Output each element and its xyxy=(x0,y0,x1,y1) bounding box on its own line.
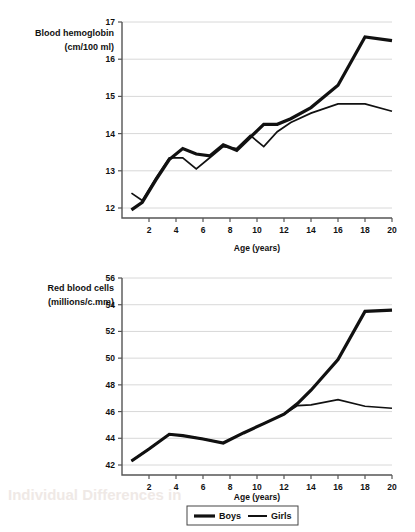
y-tick-label: 16 xyxy=(106,54,116,64)
series-line-boys-hemoglobin xyxy=(131,37,392,210)
axis-frame-rbc xyxy=(122,278,392,475)
y-tick-label: 52 xyxy=(106,326,116,336)
x-tick-labels-hemoglobin: 2468101214161820 xyxy=(147,225,397,235)
x-tick-label: 12 xyxy=(279,225,289,235)
series-line-girls-hemoglobin xyxy=(131,104,392,201)
x-tick-label: 4 xyxy=(174,482,179,492)
axis-frame-hemoglobin xyxy=(122,22,392,218)
x-tick-label: 10 xyxy=(252,482,262,492)
chart-hemoglobin: 121314151617 2468101214161820 Blood hemo… xyxy=(35,17,397,253)
y-tick-label: 46 xyxy=(106,407,116,417)
x-axis-title-rbc: Age (years) xyxy=(234,492,280,502)
x-tick-label: 16 xyxy=(333,482,343,492)
x-tick-labels-rbc: 2468101214161820 xyxy=(147,482,397,492)
x-tick-label: 14 xyxy=(306,482,316,492)
y-axis-title-rbc-line2: (millions/c.mm) xyxy=(48,297,114,307)
x-tick-label: 8 xyxy=(228,482,233,492)
y-tick-label: 14 xyxy=(106,129,116,139)
legend-label-girls: Girls xyxy=(271,511,292,521)
x-tick-label: 14 xyxy=(306,225,316,235)
x-tick-label: 2 xyxy=(147,482,152,492)
x-tick-label: 2 xyxy=(147,225,152,235)
x-tick-label: 12 xyxy=(279,482,289,492)
y-axis-title-hemoglobin-line1: Blood hemoglobin xyxy=(35,28,114,38)
x-tick-label: 16 xyxy=(333,225,343,235)
chart-red-blood-cells: 4244464850525456 2468101214161820 Red bl… xyxy=(47,273,397,502)
x-tick-label: 18 xyxy=(360,225,370,235)
figure-root: Individual Differences in 121314151617 2… xyxy=(0,0,415,532)
series-line-girls-rbc xyxy=(131,400,392,461)
tickmarks-rbc xyxy=(118,278,392,479)
y-tick-label: 17 xyxy=(106,17,116,27)
y-tick-label: 44 xyxy=(106,433,116,443)
gridlines-hemoglobin xyxy=(122,22,392,208)
y-tick-label: 13 xyxy=(106,166,116,176)
y-tick-label: 15 xyxy=(106,91,116,101)
y-axis-title-rbc-line1: Red blood cells xyxy=(47,283,114,293)
x-tick-label: 6 xyxy=(201,225,206,235)
y-axis-title-hemoglobin-line2: (cm/100 ml) xyxy=(64,42,114,52)
legend: Boys Girls xyxy=(187,506,298,525)
x-axis-title-hemoglobin: Age (years) xyxy=(234,243,280,253)
x-tick-label: 18 xyxy=(360,482,370,492)
x-tick-label: 10 xyxy=(252,225,262,235)
x-tick-label: 20 xyxy=(387,482,397,492)
charts-svg: 121314151617 2468101214161820 Blood hemo… xyxy=(0,0,415,532)
gridlines-rbc xyxy=(122,278,392,465)
y-tick-label: 48 xyxy=(106,380,116,390)
y-tick-label: 56 xyxy=(106,273,116,283)
y-tick-label: 42 xyxy=(106,460,116,470)
x-tick-label: 20 xyxy=(387,225,397,235)
legend-label-boys: Boys xyxy=(219,511,241,521)
y-tick-label: 12 xyxy=(106,203,116,213)
x-tick-label: 4 xyxy=(174,225,179,235)
y-tick-label: 50 xyxy=(106,353,116,363)
x-tick-label: 8 xyxy=(228,225,233,235)
x-tick-label: 6 xyxy=(201,482,206,492)
tickmarks-hemoglobin xyxy=(118,22,392,222)
